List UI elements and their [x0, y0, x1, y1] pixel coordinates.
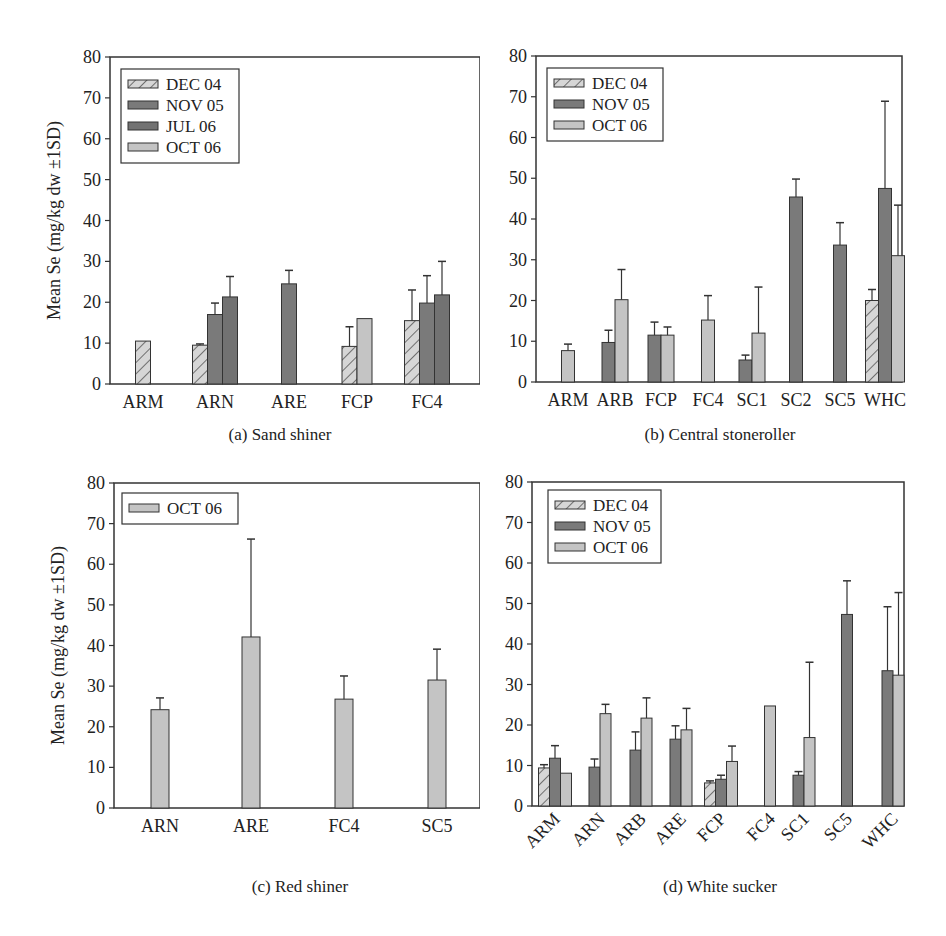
- bar: [804, 738, 815, 806]
- bar: [405, 321, 420, 384]
- legend-swatch: [554, 79, 584, 87]
- x-tick-label: FC4: [692, 390, 723, 410]
- legend-label: NOV 05: [593, 517, 651, 536]
- bar: [151, 710, 169, 808]
- y-tick-label: 70: [509, 87, 527, 107]
- bar: [866, 301, 879, 383]
- bar: [661, 335, 674, 382]
- bar: [600, 714, 611, 806]
- bar: [242, 637, 260, 808]
- caption-d: (d) White sucker: [600, 877, 840, 897]
- x-tick-label: SC1: [736, 390, 767, 410]
- y-tick-label: 60: [509, 128, 527, 148]
- legend-swatch: [554, 121, 584, 129]
- legend-label: JUL 06: [166, 117, 216, 136]
- bar: [136, 341, 151, 384]
- legend-swatch: [128, 122, 158, 130]
- chart-panel-c: 01020304050607080Mean Se (mg/kg dw ±1SD)…: [0, 470, 480, 870]
- x-tick-label: WHC: [864, 390, 906, 410]
- y-tick-label: 80: [87, 473, 105, 493]
- chart-panel-a: 01020304050607080Mean Se (mg/kg dw ±1SD)…: [0, 0, 480, 440]
- bar: [223, 297, 238, 384]
- bar-chart-red-shiner: 01020304050607080Mean Se (mg/kg dw ±1SD)…: [0, 470, 480, 870]
- y-tick-label: 40: [505, 634, 523, 654]
- x-tick-label: ARE: [650, 809, 690, 849]
- y-tick-label: 30: [509, 250, 527, 270]
- legend-label: NOV 05: [592, 95, 650, 114]
- bar-chart-white-sucker: 01020304050607080ARMARNARBAREFCPFC4SC1SC…: [480, 470, 946, 870]
- bar: [702, 320, 715, 382]
- x-tick-label: ARB: [610, 809, 650, 849]
- legend-label: DEC 04: [166, 75, 222, 94]
- bar: [428, 680, 446, 808]
- y-axis-label: Mean Se (mg/kg dw ±1SD): [44, 121, 65, 320]
- bar: [561, 773, 572, 806]
- bar: [727, 761, 738, 806]
- y-tick-label: 80: [509, 46, 527, 66]
- x-tick-label: WHC: [858, 809, 902, 853]
- y-tick-label: 0: [96, 798, 105, 818]
- bar: [630, 750, 641, 806]
- bar: [765, 706, 776, 806]
- bar: [705, 783, 716, 806]
- y-tick-label: 0: [514, 796, 523, 816]
- y-tick-label: 40: [87, 636, 105, 656]
- legend-label: OCT 06: [166, 138, 221, 157]
- legend-label: DEC 04: [592, 74, 648, 93]
- x-tick-label: FC4: [411, 392, 442, 412]
- y-tick-label: 50: [83, 170, 101, 190]
- y-tick-label: 40: [83, 211, 101, 231]
- bar: [790, 197, 803, 382]
- x-tick-label: SC1: [777, 809, 813, 845]
- bar: [589, 767, 600, 806]
- y-tick-label: 20: [505, 715, 523, 735]
- y-tick-label: 20: [509, 291, 527, 311]
- legend-label: OCT 06: [593, 538, 648, 557]
- y-tick-label: 60: [83, 129, 101, 149]
- bar: [842, 614, 853, 806]
- y-tick-label: 20: [87, 717, 105, 737]
- bar-chart-sand-shiner: 01020304050607080Mean Se (mg/kg dw ±1SD)…: [0, 0, 480, 440]
- bar: [615, 300, 628, 382]
- caption-b: (b) Central stoneroller: [600, 425, 840, 445]
- x-tick-label: SC5: [421, 816, 452, 836]
- x-tick-label: ARE: [271, 392, 307, 412]
- x-tick-label: ARM: [521, 809, 564, 852]
- legend-label: OCT 06: [592, 116, 647, 135]
- chart-panel-d: 01020304050607080ARMARNARBAREFCPFC4SC1SC…: [480, 470, 946, 870]
- x-tick-label: ARM: [547, 390, 588, 410]
- y-tick-label: 70: [87, 514, 105, 534]
- bar: [834, 245, 847, 382]
- bar: [752, 333, 765, 382]
- y-tick-label: 60: [505, 553, 523, 573]
- y-tick-label: 50: [87, 595, 105, 615]
- y-tick-label: 10: [87, 757, 105, 777]
- x-tick-label: FC4: [743, 809, 779, 845]
- x-tick-label: SC5: [820, 809, 856, 845]
- legend-label: DEC 04: [593, 496, 649, 515]
- legend-label: NOV 05: [166, 96, 224, 115]
- y-tick-label: 30: [83, 251, 101, 271]
- y-tick-label: 80: [505, 472, 523, 492]
- y-tick-label: 0: [518, 372, 527, 392]
- y-tick-label: 20: [83, 292, 101, 312]
- bar: [716, 779, 727, 806]
- y-axis-label: Mean Se (mg/kg dw ±1SD): [48, 546, 69, 745]
- bar: [641, 718, 652, 806]
- y-tick-label: 40: [509, 209, 527, 229]
- bar-chart-central-stoneroller: 01020304050607080ARMARBFCPFC4SC1SC2SC5WH…: [480, 0, 946, 440]
- bar: [648, 335, 661, 382]
- x-tick-label: FCP: [341, 392, 373, 412]
- x-tick-label: ARM: [122, 392, 163, 412]
- x-tick-label: ARN: [196, 392, 234, 412]
- legend-swatch: [128, 101, 158, 109]
- legend-swatch: [555, 501, 585, 509]
- bar: [335, 699, 353, 808]
- x-tick-label: ARN: [568, 809, 609, 850]
- legend-swatch: [555, 522, 585, 530]
- legend-swatch: [129, 504, 159, 512]
- bar: [550, 758, 561, 806]
- legend: DEC 04NOV 05OCT 06: [548, 490, 661, 563]
- bar: [681, 730, 692, 806]
- legend-swatch: [128, 143, 158, 151]
